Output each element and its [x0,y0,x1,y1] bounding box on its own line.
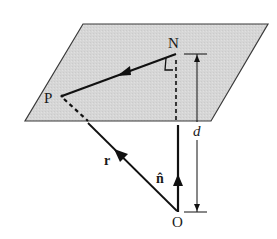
plane-vector-diagram: N P O r n̂ d [0,0,277,239]
label-n: N [168,35,179,51]
label-n-hat: n̂ [156,171,164,186]
label-d: d [193,123,201,139]
dimension-arrow-down-icon [194,204,200,211]
n-hat-arrow-icon [173,174,183,186]
plane [25,24,268,121]
label-p: P [44,90,52,106]
point-p [60,94,63,97]
r-line [88,123,177,211]
label-r: r [104,153,110,168]
label-o: O [172,214,183,230]
